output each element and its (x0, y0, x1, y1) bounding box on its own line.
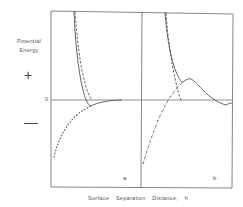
panel-a-curves (54, 11, 122, 157)
negative-sign: — (24, 114, 38, 130)
panel-b-label: b (213, 175, 216, 181)
potential-energy-diagram: Potential Energy + — 0 a b Surface Separ… (0, 0, 243, 207)
panel-a-total-curve (74, 11, 122, 106)
panel-a-label: a (123, 175, 126, 181)
panel-a-attraction-curve (54, 106, 91, 157)
panel-b-repulsion-curve (166, 13, 182, 102)
plot-frame (51, 11, 233, 188)
x-axis-label: Surface Separation Distance, h (88, 195, 188, 201)
y-axis-label-line1: Potential (12, 37, 46, 46)
zero-tick-label: 0 (45, 96, 48, 102)
panel-b-attraction-curve (143, 82, 183, 164)
y-axis-label: Potential Energy (12, 37, 46, 55)
panel-b-total-curve (165, 12, 232, 105)
panel-b-curves (143, 12, 232, 164)
y-axis-label-line2: Energy (12, 46, 46, 55)
plot-area (0, 0, 243, 207)
positive-sign: + (24, 67, 32, 83)
